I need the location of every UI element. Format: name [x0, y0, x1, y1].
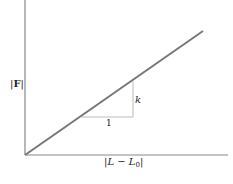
- y-axis-label: |F|: [10, 79, 24, 89]
- x-axis-label: |L − L0|: [104, 157, 143, 169]
- slope-run-label: 1: [106, 119, 112, 128]
- slope-rise-label: k: [135, 95, 141, 105]
- linear-relationship-line: [25, 31, 203, 155]
